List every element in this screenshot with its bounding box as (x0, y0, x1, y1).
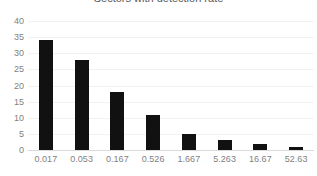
bar-slot (135, 21, 171, 150)
x-axis-tick-label: 16.67 (243, 154, 279, 165)
x-axis: 0.0170.0530.1670.5261.6675.26316.6752.63 (28, 154, 314, 168)
y-axis-tick-label: 5 (0, 130, 24, 139)
y-axis-tick-label: 30 (0, 49, 24, 58)
y-axis-tick-label: 35 (0, 33, 24, 42)
x-axis-line (28, 150, 314, 151)
y-axis-tick-label: 20 (0, 82, 24, 91)
bar[interactable] (75, 60, 89, 150)
bar-slot (171, 21, 207, 150)
x-axis-tick-label: 0.053 (64, 154, 100, 165)
bar-slot (243, 21, 279, 150)
x-axis-tick-label: 1.667 (171, 154, 207, 165)
y-axis-tick-label: 40 (0, 17, 24, 26)
bar[interactable] (39, 40, 53, 150)
y-axis-tick-label: 10 (0, 114, 24, 123)
x-axis-tick-label: 0.017 (28, 154, 64, 165)
bar-slot (278, 21, 314, 150)
y-axis-tick-label: 0 (0, 146, 24, 155)
bar-slot (64, 21, 100, 150)
bar-slot (100, 21, 136, 150)
x-axis-tick-label: 5.263 (207, 154, 243, 165)
x-axis-tick-label: 52.63 (278, 154, 314, 165)
bar[interactable] (146, 115, 160, 150)
y-axis: 0510152025303540 (0, 21, 24, 150)
bar[interactable] (110, 92, 124, 150)
bar[interactable] (218, 140, 232, 150)
y-axis-tick-label: 25 (0, 65, 24, 74)
plot-area (28, 21, 314, 150)
y-axis-tick-label: 15 (0, 98, 24, 107)
x-axis-tick-label: 0.167 (100, 154, 136, 165)
bar-chart: Sectors with detection rate 051015202530… (0, 0, 317, 176)
bar-slot (28, 21, 64, 150)
bar[interactable] (182, 134, 196, 150)
bar-slot (207, 21, 243, 150)
x-axis-tick-label: 0.526 (135, 154, 171, 165)
chart-title: Sectors with detection rate (0, 0, 317, 4)
